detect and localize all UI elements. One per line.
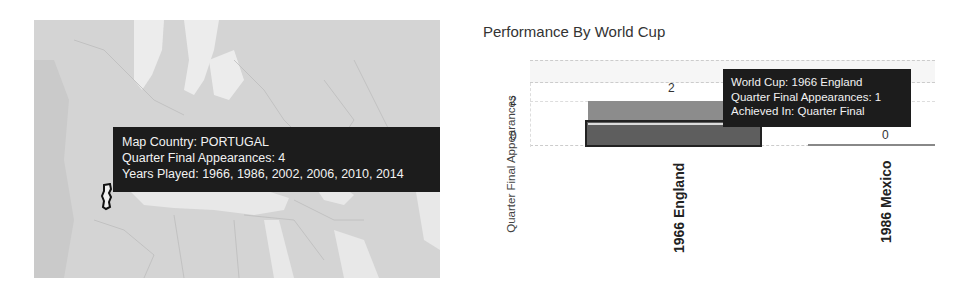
- map-tooltip-country: Map Country: PORTUGAL: [122, 134, 440, 150]
- y-tick-0: 0: [510, 129, 517, 143]
- bar-1986-mexico[interactable]: [808, 144, 935, 146]
- chart-tooltip-world-cup: World Cup: 1966 England: [731, 75, 903, 90]
- y-tick-2: 2: [510, 94, 517, 108]
- map-tooltip: Map Country: PORTUGAL Quarter Final Appe…: [113, 127, 440, 192]
- y-axis-line: [530, 83, 531, 147]
- chart-tooltip-appearances: Quarter Final Appearances: 1: [731, 90, 903, 105]
- map-tooltip-appearances: Quarter Final Appearances: 4: [122, 150, 440, 166]
- x-label-1986-mexico: 1986 Mexico: [878, 161, 894, 244]
- y-axis-label: Quarter Final Appearances: [505, 92, 517, 237]
- performance-chart: Performance By World Cup Quarter Final A…: [478, 18, 961, 283]
- bar-value-1966-england: 2: [668, 81, 675, 95]
- chart-tooltip: World Cup: 1966 England Quarter Final Ap…: [723, 69, 911, 127]
- world-map[interactable]: Map Country: PORTUGAL Quarter Final Appe…: [34, 20, 440, 278]
- map-tooltip-years: Years Played: 1966, 1986, 2002, 2006, 20…: [122, 166, 440, 182]
- chart-tooltip-achieved: Achieved In: Quarter Final: [731, 104, 903, 119]
- chart-title: Performance By World Cup: [483, 23, 665, 40]
- x-label-1966-england: 1966 England: [671, 163, 687, 253]
- bar-value-1986-mexico: 0: [882, 128, 889, 142]
